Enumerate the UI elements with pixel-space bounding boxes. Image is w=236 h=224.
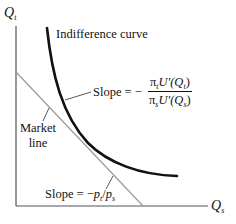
mrs-slope-prefix: Slope = − xyxy=(93,86,142,99)
u-prime-qs: U′(Q xyxy=(158,93,183,107)
u-prime-qt: U′(Q xyxy=(158,75,183,89)
y-axis-label: Qt xyxy=(4,6,16,20)
price-s-sub: s xyxy=(112,194,115,203)
price-t-sub: t xyxy=(100,194,102,203)
mrs-slope-leader xyxy=(65,92,91,100)
price-slope-label: Slope = −pt/ps xyxy=(45,188,115,201)
indifference-curve-label: Indifference curve xyxy=(56,28,148,41)
u-prime-qt-sub: t xyxy=(183,82,185,91)
y-axis-label-main: Q xyxy=(4,5,14,20)
x-axis-label: Qs xyxy=(211,199,224,213)
mrs-slope-denominator: πsU′(Qs) xyxy=(148,94,192,107)
market-line-label-line1: Market xyxy=(18,122,58,135)
mrs-slope-fraction: πtU′(Qt) πsU′(Qs) xyxy=(148,76,192,106)
market-line-label-line2: line xyxy=(18,137,58,150)
numerator-close-paren: ) xyxy=(186,75,190,89)
price-slope-prefix: Slope = − xyxy=(45,187,94,201)
u-prime-qs-sub: s xyxy=(183,100,186,109)
pi-s-sub: s xyxy=(155,100,158,109)
x-axis-label-sub: s xyxy=(221,206,224,215)
denominator-close-paren: ) xyxy=(187,93,191,107)
x-axis-label-main: Q xyxy=(211,198,221,213)
market-line-leader xyxy=(43,108,49,121)
market-line-label: Market line xyxy=(18,122,58,149)
mrs-slope-numerator: πtU′(Qt) xyxy=(149,76,191,89)
